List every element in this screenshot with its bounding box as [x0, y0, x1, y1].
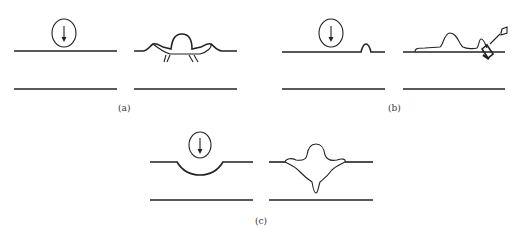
panel-c: (c) [150, 132, 373, 226]
mushroom-crater [285, 144, 345, 193]
wavy-surface-layer [415, 33, 487, 52]
panel-c-after [269, 144, 373, 200]
panel-b: (b) [282, 19, 507, 113]
caption-a: (a) [118, 103, 130, 113]
panel-b-after [403, 27, 507, 89]
panel-a-after [134, 34, 237, 89]
crack-lines [164, 55, 198, 62]
down-arrow-icon [62, 26, 67, 42]
ejection-path [490, 34, 500, 44]
panel-a-before [14, 19, 117, 89]
top-surface-line [282, 44, 385, 52]
ejected-particle [501, 27, 507, 35]
figure-canvas: (a) (b) [0, 0, 523, 232]
panel-c-before [150, 132, 253, 200]
deformed-surface [134, 34, 237, 51]
caption-c: (c) [255, 216, 267, 226]
top-surface-line [150, 162, 253, 175]
caption-b: (b) [388, 103, 401, 113]
down-arrow-icon [329, 26, 334, 42]
panel-b-before [282, 19, 385, 89]
panel-a: (a) [14, 19, 237, 113]
down-arrow-icon [198, 138, 203, 154]
